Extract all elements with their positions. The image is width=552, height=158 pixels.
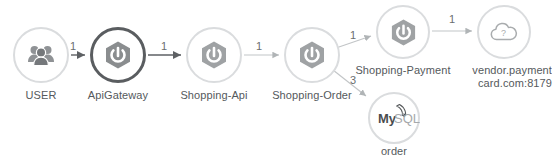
spring-boot-icon — [389, 18, 418, 47]
node-shopping-api[interactable] — [186, 27, 242, 83]
node-vendor-payment[interactable]: ? — [477, 5, 531, 59]
node-label-vendor-payment: vendor.payment card.com:8179 — [446, 64, 552, 90]
edge-label-shopping-payment-to-vendor-payment: 1 — [449, 14, 455, 25]
cloud-question-icon: ? — [489, 20, 519, 44]
node-user[interactable] — [13, 27, 69, 83]
edge-label-shopping-api-to-shopping-order: 1 — [256, 41, 262, 52]
vendor-payment-host-line1: vendor.payment — [472, 64, 552, 76]
spring-boot-icon — [103, 40, 133, 70]
edge-label-shopping-order-to-shopping-payment: 1 — [350, 30, 356, 41]
vendor-payment-host-line2: card.com:8179 — [478, 77, 552, 89]
node-label-shopping-api: Shopping-Api — [167, 89, 261, 102]
node-apigateway[interactable] — [90, 27, 146, 83]
edge-label-user-to-apigateway: 1 — [70, 41, 76, 52]
mysql-wordmark-sql: SQL — [394, 111, 420, 126]
spring-boot-icon — [199, 40, 229, 70]
node-shopping-order[interactable] — [284, 27, 340, 83]
edge-label-shopping-order-to-order-mysql: 3 — [350, 75, 356, 86]
node-label-shopping-order: Shopping-Order — [259, 89, 365, 102]
node-label-order-mysql: order — [358, 145, 430, 158]
mysql-icon: My SQL — [368, 92, 420, 144]
edge-label-apigateway-to-shopping-api: 1 — [161, 41, 167, 52]
node-label-user: USER — [0, 89, 82, 102]
spring-boot-icon — [297, 40, 327, 70]
node-order-mysql[interactable]: My SQL — [368, 92, 420, 144]
service-topology-diagram: USER ApiGateway Shopping-Api Shopping-Or… — [0, 0, 552, 158]
node-shopping-payment[interactable] — [376, 5, 430, 59]
users-group-icon — [27, 43, 55, 67]
svg-text:?: ? — [501, 28, 506, 38]
node-label-apigateway: ApiGateway — [73, 89, 163, 102]
